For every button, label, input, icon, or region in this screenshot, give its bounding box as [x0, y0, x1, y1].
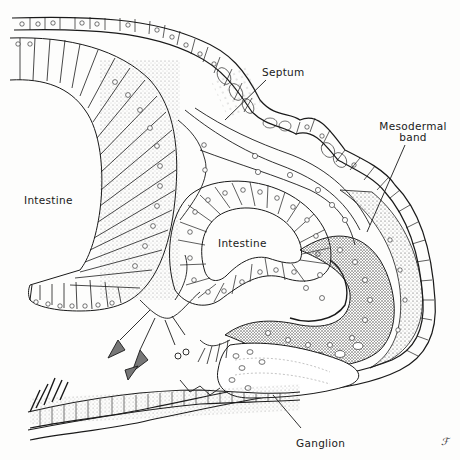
label-mesodermal-band: Mesodermal band — [373, 121, 453, 143]
artist-signature: ℱ — [441, 436, 449, 447]
label-intestine-left: Intestine — [24, 195, 73, 206]
mesenchyme-cells — [108, 292, 230, 395]
label-intestine-center: Intestine — [218, 238, 267, 249]
label-septum: Septum — [262, 67, 305, 78]
histology-figure: Septum Mesodermal band Intestine Intesti… — [0, 0, 460, 460]
label-ganglion: Ganglion — [296, 438, 345, 449]
label-mesodermal-band-line2: band — [373, 132, 453, 143]
section-drawing — [0, 0, 460, 460]
left-intestine — [10, 38, 180, 311]
